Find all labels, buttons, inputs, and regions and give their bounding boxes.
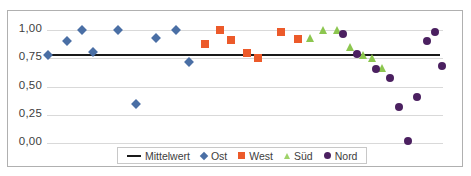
legend-item-mittelwert[interactable]: Mittelwert bbox=[127, 150, 190, 162]
data-point-west bbox=[216, 26, 224, 34]
data-point-ost bbox=[151, 33, 161, 43]
y-axis-tick-label: 0,50 bbox=[19, 79, 42, 91]
legend-item-label: Nord bbox=[335, 150, 358, 162]
data-point-nord bbox=[353, 50, 361, 58]
data-point-nord bbox=[404, 137, 412, 145]
legend-item-nord[interactable]: Nord bbox=[324, 150, 358, 162]
mean-line-icon bbox=[127, 155, 141, 157]
diamond-marker-icon bbox=[200, 151, 208, 159]
gridline bbox=[47, 58, 443, 59]
data-point-west bbox=[243, 49, 251, 57]
legend-item-label: Ost bbox=[211, 150, 227, 162]
data-point-nord bbox=[339, 30, 347, 38]
chart-legend: MittelwertOstWestSüdNord bbox=[117, 147, 367, 164]
legend-item-label: Süd bbox=[294, 150, 313, 162]
data-point-ost bbox=[62, 36, 72, 46]
legend-item-label: West bbox=[249, 150, 273, 162]
data-point-nord bbox=[431, 28, 439, 36]
y-axis: 1,000,750,500,250,00 bbox=[0, 0, 42, 176]
data-point-west bbox=[294, 35, 302, 43]
square-marker-icon bbox=[238, 152, 245, 159]
plot-area bbox=[47, 30, 443, 143]
data-point-sud bbox=[368, 54, 376, 62]
data-point-nord bbox=[423, 37, 431, 45]
y-axis-tick-label: 1,00 bbox=[19, 22, 42, 34]
data-point-nord bbox=[372, 65, 380, 73]
data-point-nord bbox=[438, 62, 446, 70]
legend-item-label: Mittelwert bbox=[145, 150, 190, 162]
data-point-sud bbox=[319, 26, 327, 34]
gridline bbox=[47, 30, 443, 31]
legend-item-ost[interactable]: Ost bbox=[201, 150, 227, 162]
y-axis-tick-label: 0,25 bbox=[19, 107, 42, 119]
data-point-nord bbox=[386, 74, 394, 82]
y-axis-tick-label: 0,00 bbox=[19, 135, 42, 147]
data-point-ost bbox=[131, 99, 141, 109]
data-point-sud bbox=[346, 43, 354, 51]
circle-marker-icon bbox=[324, 152, 331, 159]
data-point-west bbox=[227, 36, 235, 44]
legend-item-west[interactable]: West bbox=[238, 150, 273, 162]
gridline bbox=[47, 87, 443, 88]
legend-item-sud[interactable]: Süd bbox=[284, 150, 313, 162]
data-point-west bbox=[201, 40, 209, 48]
gridline bbox=[47, 143, 443, 144]
data-point-sud bbox=[306, 34, 314, 42]
gridline bbox=[47, 115, 443, 116]
y-axis-tick-label: 0,75 bbox=[19, 50, 42, 62]
data-point-west bbox=[277, 28, 285, 36]
data-point-west bbox=[254, 54, 262, 62]
data-point-nord bbox=[413, 93, 421, 101]
triangle-marker-icon bbox=[284, 153, 290, 159]
data-point-nord bbox=[395, 103, 403, 111]
scatter-chart: 1,000,750,500,250,00 MittelwertOstWestSü… bbox=[0, 0, 471, 176]
